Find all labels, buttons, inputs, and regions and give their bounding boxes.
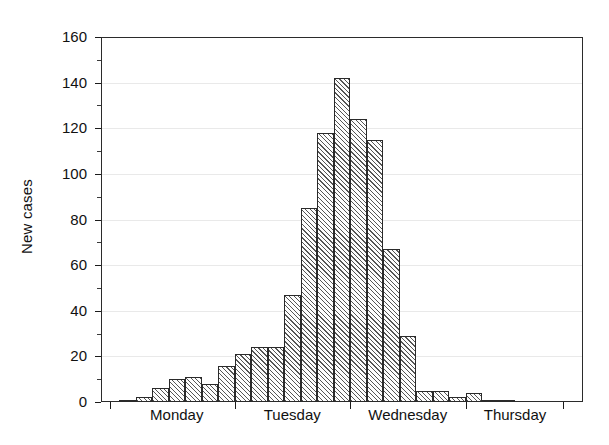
histogram-chart: New cases 020406080100120140160 MondayTu…	[0, 0, 609, 445]
bar	[284, 295, 301, 402]
x-group-label-thursday: Thursday	[445, 406, 585, 423]
bar	[383, 249, 400, 402]
y-axis-title: New cases	[18, 117, 35, 317]
bar	[218, 366, 235, 403]
bar	[367, 140, 384, 402]
y-tick-label: 140	[41, 75, 87, 90]
y-tick-label: 20	[41, 348, 87, 363]
bar	[235, 354, 252, 402]
bar	[499, 400, 516, 403]
y-tick-mark	[95, 402, 101, 403]
bar	[416, 391, 433, 402]
bar	[350, 119, 367, 402]
bar	[251, 347, 268, 402]
bar	[185, 377, 202, 402]
bar	[152, 388, 169, 402]
y-tick-label: 60	[41, 257, 87, 272]
bar	[202, 384, 219, 402]
plot-area	[101, 37, 583, 402]
bar	[449, 397, 466, 402]
y-tick-label: 160	[41, 29, 87, 44]
y-tick-label: 0	[41, 394, 87, 409]
bar	[268, 347, 285, 402]
y-tick-label: 80	[41, 212, 87, 227]
bar	[136, 397, 153, 402]
bar	[400, 336, 417, 402]
bar	[334, 78, 351, 402]
bar	[169, 379, 186, 402]
bar	[433, 391, 450, 402]
bar	[466, 393, 483, 402]
bar	[301, 208, 318, 402]
bar	[317, 133, 334, 402]
y-tick-label: 100	[41, 166, 87, 181]
bar	[119, 400, 136, 403]
bar	[482, 400, 499, 403]
y-tick-label: 40	[41, 303, 87, 318]
y-tick-label: 120	[41, 120, 87, 135]
